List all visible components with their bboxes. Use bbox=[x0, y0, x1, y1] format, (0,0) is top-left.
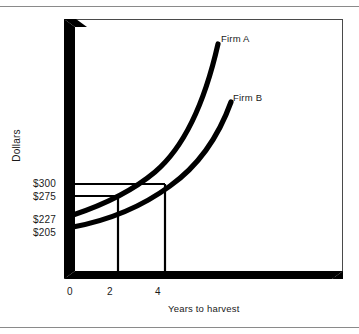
chart-canvas bbox=[0, 0, 359, 334]
series-label-firm-b: Firm B bbox=[233, 92, 262, 103]
y-tick-label-205: $205 bbox=[14, 227, 56, 238]
y-tick-label-300: $300 bbox=[14, 178, 56, 189]
series-label-firm-a: Firm A bbox=[221, 33, 250, 44]
x-tick-label-4: 4 bbox=[150, 286, 166, 297]
y-tick-label-227: $227 bbox=[14, 214, 56, 225]
chart-figure: $300 $275 $227 $205 0 2 4 Dollars Years … bbox=[0, 0, 359, 334]
y-axis-title: Dollars bbox=[11, 116, 22, 176]
x-tick-label-0: 0 bbox=[62, 286, 78, 297]
series-line-firm-a bbox=[73, 44, 218, 215]
x-tick-label-2: 2 bbox=[102, 286, 118, 297]
x-axis-3d-bar bbox=[64, 271, 343, 279]
x-axis-title: Years to harvest bbox=[168, 303, 240, 314]
y-tick-label-275: $275 bbox=[14, 191, 56, 202]
y-axis-3d-bar bbox=[64, 19, 75, 279]
